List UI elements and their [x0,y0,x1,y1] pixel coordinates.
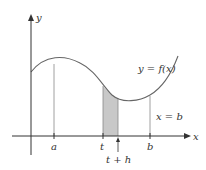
t-plus-h-arrow-icon [116,137,120,142]
y-axis-arrow-icon [28,14,34,21]
curve-label: y = f(x) [137,63,176,74]
tick-label-t-plus-h: t + h [106,154,131,165]
x-axis-arrow-icon [184,133,191,139]
integral-diagram: y x y = f(x) x = b a t b t + h [0,0,206,170]
tick-label-t: t [100,141,105,152]
line-b-label: x = b [156,111,183,122]
tick-label-b: b [147,141,153,152]
x-axis-label: x [193,131,199,142]
tick-label-a: a [51,141,57,152]
y-axis-label: y [35,12,42,23]
